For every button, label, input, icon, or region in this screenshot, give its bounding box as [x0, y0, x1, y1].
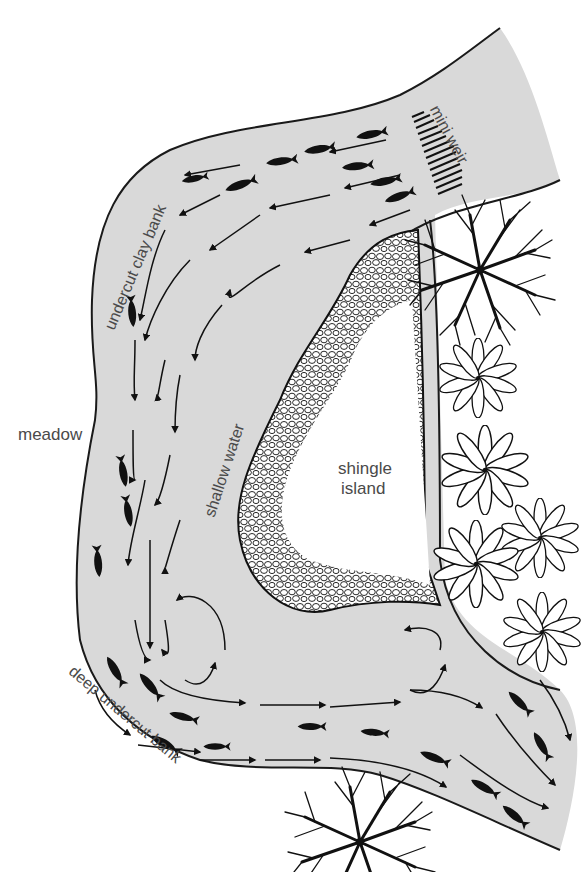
river-diagram: mini weir undercut clay bank meadow shal… [0, 0, 581, 872]
label-shingle-island-line1: shingle [338, 460, 392, 477]
label-meadow: meadow [18, 426, 82, 443]
label-shingle-island-line2: island [341, 480, 385, 497]
river-diagram-svg [0, 0, 581, 872]
